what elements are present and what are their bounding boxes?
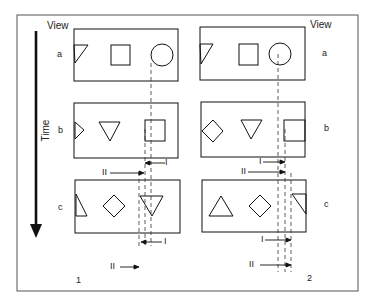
panel-number-1: 1: [76, 276, 81, 285]
triangle-down-shape: [99, 122, 120, 141]
view-header-left: View: [47, 21, 69, 30]
view-box: [75, 180, 180, 233]
panel-2: [200, 27, 306, 272]
panel-2-row-a: [200, 27, 305, 80]
marker-I-p2-c: I: [261, 235, 264, 244]
partial-triangle-shape: [76, 194, 87, 216]
row-label-c-left: c: [58, 203, 63, 212]
view-header-right: View: [310, 20, 332, 29]
row-label-b-right: b: [324, 124, 329, 133]
arrowhead-down-icon: [30, 224, 42, 238]
panel-1: [74, 29, 180, 269]
panel-1-row-a: [74, 29, 178, 81]
panel-1-row-c: [75, 180, 180, 233]
marker-II-p1-bc: II: [102, 168, 107, 177]
marker-II-p1-c: II: [110, 262, 115, 271]
view-box: [200, 27, 305, 80]
marker-I-p1-bc: I: [165, 158, 168, 167]
row-label-b-left: b: [58, 126, 63, 135]
circle-shape: [269, 43, 291, 65]
partial-triangle-shape: [74, 45, 88, 63]
marker-I-p1-c: I: [164, 237, 167, 246]
row-label-c-right: c: [324, 200, 329, 209]
panel-1-arrows-c: [120, 240, 162, 269]
square-shape: [239, 44, 258, 65]
triangle-up-shape: [209, 196, 233, 216]
marker-II-p2-c: II: [249, 260, 254, 269]
diamond-shape: [103, 195, 125, 217]
partial-triangle-shape: [75, 122, 84, 139]
triangle-down-shape: [241, 120, 262, 139]
panel-2-arrows-c: [260, 238, 291, 267]
circle-shape: [151, 44, 173, 66]
diamond-shape: [202, 120, 223, 142]
view-box: [74, 29, 178, 81]
partial-triangle-shape: [200, 44, 213, 64]
panel-1-arrows-bc: [110, 161, 165, 175]
row-label-a-right: a: [322, 49, 327, 58]
panel-2-row-c: [202, 180, 306, 232]
panel-1-dashed-guides: [139, 63, 151, 246]
square-shape: [145, 120, 165, 141]
marker-II-p2-bc: II: [241, 167, 246, 176]
square-shape: [111, 45, 130, 65]
partial-triangle-shape: [292, 194, 306, 214]
panel-2-arrows-bc: [248, 160, 285, 174]
outer-frame: [17, 15, 358, 291]
row-label-a-left: a: [57, 50, 62, 59]
view-box: [74, 103, 178, 158]
panel-number-2: 2: [307, 274, 312, 283]
diamond-shape: [249, 195, 271, 217]
diagram-canvas: [0, 0, 378, 304]
view-box: [202, 180, 306, 232]
marker-I-p2-bc: I: [259, 157, 262, 166]
triangle-down-shape: [140, 196, 163, 216]
view-box: [201, 102, 305, 157]
panel-2-row-b: [201, 102, 305, 157]
panel-1-row-b: [74, 103, 178, 158]
partial-square-shape: [284, 120, 305, 141]
time-axis-label: Time: [40, 120, 51, 142]
